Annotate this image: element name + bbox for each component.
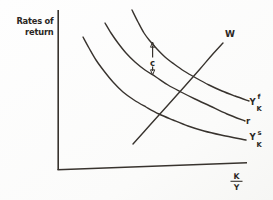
- w-curve-label: W: [225, 29, 235, 39]
- y-axis-title-line-2: return: [25, 27, 54, 37]
- ykf-label-sup: f: [258, 93, 262, 101]
- curve-YKf: [132, 10, 249, 101]
- r-curve-label: r: [246, 116, 251, 126]
- rates-of-return-diagram: Rates ofreturnWYfKrYsKcKY: [0, 0, 273, 200]
- y-axis-title-line-1: Rates of: [16, 16, 54, 26]
- gap-annotation-label: c: [150, 58, 155, 68]
- x-axis-title-numerator: K: [234, 172, 241, 181]
- scanned-figure-page: Rates ofreturnWYfKrYsKcKY: [0, 0, 273, 200]
- ykf-label-base: Y: [249, 97, 257, 107]
- ykf-label-sub: K: [257, 105, 263, 113]
- x-axis-line: [58, 163, 248, 170]
- axes-layer: [58, 10, 248, 181]
- x-axis-title-denominator: Y: [233, 183, 240, 192]
- yks-label-sub: K: [257, 141, 263, 149]
- curve-W: [133, 43, 223, 144]
- curve-r: [105, 23, 245, 121]
- yks-label-base: Y: [249, 132, 257, 142]
- yks-label-sup: s: [258, 129, 262, 137]
- curve-YKs: [83, 37, 246, 140]
